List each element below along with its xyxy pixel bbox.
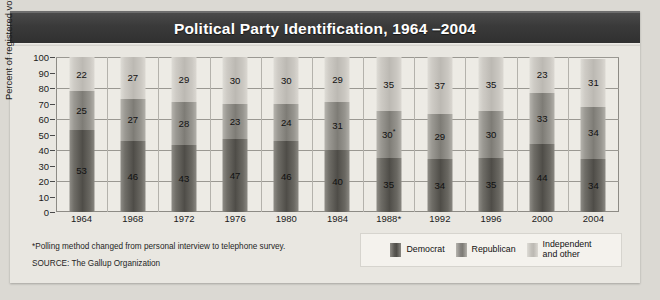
bar-slot: 353035 xyxy=(465,57,516,212)
bar-value-label: 30 xyxy=(486,129,497,140)
x-axis-tick-label: 1976 xyxy=(225,213,246,224)
bar-slot: 343431 xyxy=(568,57,619,212)
bar-segment-rep: 30 xyxy=(479,111,504,158)
bar-segment-ind: 30 xyxy=(223,57,248,104)
bar-slot: 3530*35 xyxy=(363,57,414,212)
bar-segment-rep: 29 xyxy=(427,114,452,159)
stacked-bar[interactable]: 432829 xyxy=(171,57,196,212)
bar-slot: 532522 xyxy=(56,57,107,212)
bar-value-label: 40 xyxy=(332,176,343,187)
legend-item-democrat[interactable]: Democrat xyxy=(390,243,444,257)
y-axis-tick-mark xyxy=(50,212,55,213)
legend-label-independent-line2: and other xyxy=(543,249,580,259)
bar-value-label: 29 xyxy=(179,74,190,85)
bar-segment-rep: 23 xyxy=(223,104,248,140)
bar-segment-rep: 27 xyxy=(120,99,145,141)
bar-segment-dem: 34 xyxy=(427,159,452,212)
bar-segment-ind: 22 xyxy=(69,57,94,91)
y-axis-tick-label: 10 xyxy=(38,191,49,202)
x-axis-tick-label: 1988* xyxy=(376,213,401,224)
bar-value-label: 30* xyxy=(382,128,395,140)
bar-segment-rep: 34 xyxy=(581,107,606,160)
bar-segment-rep: 33 xyxy=(530,93,555,144)
y-axis-tick-mark xyxy=(50,88,55,89)
bar-value-label: 28 xyxy=(179,118,190,129)
bar-value-label: 46 xyxy=(281,171,292,182)
bar-value-label: 29 xyxy=(332,74,343,85)
legend: Democrat Republican Independent and othe… xyxy=(360,233,622,267)
bar-segment-ind: 35 xyxy=(479,57,504,111)
bar-value-label: 47 xyxy=(230,170,241,181)
x-axis-tick-label: 1964 xyxy=(71,213,92,224)
bar-slot: 462430 xyxy=(261,57,312,212)
bar-value-label: 25 xyxy=(76,105,87,116)
stacked-bar[interactable]: 462727 xyxy=(120,57,145,212)
bar-value-label: 31 xyxy=(588,77,599,88)
title-underline xyxy=(10,43,640,46)
legend-item-independent[interactable]: Independent and other xyxy=(527,240,592,260)
bar-segment-dem: 44 xyxy=(530,144,555,212)
bar-segment-rep: 25 xyxy=(69,91,94,130)
title-bar: Political Party Identification, 1964 –20… xyxy=(10,11,640,45)
bar-segment-ind: 37 xyxy=(427,57,452,114)
bar-segment-ind: 29 xyxy=(171,57,196,102)
page-title: Political Party Identification, 1964 –20… xyxy=(10,13,640,45)
stacked-bar[interactable]: 353035 xyxy=(479,57,504,212)
legend-swatch-republican-icon xyxy=(456,243,467,257)
legend-item-republican[interactable]: Republican xyxy=(456,243,516,257)
bar-slot: 432829 xyxy=(158,57,209,212)
chart-card: Political Party Identification, 1964 –20… xyxy=(10,11,640,283)
bar-segment-ind: 31 xyxy=(581,59,606,107)
y-axis-tick-label: 60 xyxy=(38,114,49,125)
stacked-bar[interactable]: 462430 xyxy=(274,57,299,212)
y-axis-tick-label: 40 xyxy=(38,145,49,156)
footnote-polling-method: *Polling method changed from personal in… xyxy=(32,242,285,251)
bar-segment-dem: 43 xyxy=(171,145,196,212)
bar-value-label: 29 xyxy=(435,131,446,142)
y-axis-tick-mark xyxy=(50,166,55,167)
bar-slot: 342937 xyxy=(414,57,465,212)
bar-slot: 443323 xyxy=(517,57,568,212)
bar-value-label: 30 xyxy=(230,75,241,86)
stacked-bar[interactable]: 532522 xyxy=(69,57,94,212)
footnote-source: SOURCE: The Gallup Organization xyxy=(32,259,160,268)
stacked-bar[interactable]: 343431 xyxy=(581,57,606,212)
stacked-bar[interactable]: 342937 xyxy=(427,57,452,212)
legend-label-independent-line1: Independent xyxy=(543,239,592,249)
bar-slot: 403129 xyxy=(312,57,363,212)
x-axis-tick-label: 2000 xyxy=(532,213,553,224)
bar-segment-ind: 35 xyxy=(376,57,401,111)
bar-value-label: 35 xyxy=(486,179,497,190)
y-axis-tick-label: 70 xyxy=(38,98,49,109)
x-axis-tick-label: 1972 xyxy=(173,213,194,224)
stacked-bar[interactable]: 403129 xyxy=(325,57,350,212)
bar-value-label: 35 xyxy=(383,179,394,190)
bar-segment-ind: 27 xyxy=(120,57,145,99)
footnote-marker: * xyxy=(393,128,396,135)
bar-value-label: 24 xyxy=(281,117,292,128)
y-axis-tick-mark xyxy=(50,197,55,198)
y-axis-tick-mark xyxy=(50,57,55,58)
stacked-bar[interactable]: 472330 xyxy=(223,57,248,212)
bar-segment-rep: 28 xyxy=(171,102,196,145)
bar-value-label: 22 xyxy=(76,69,87,80)
y-axis-tick-label: 50 xyxy=(38,129,49,140)
bar-value-label: 43 xyxy=(179,173,190,184)
x-axis-tick-label: 1996 xyxy=(480,213,501,224)
bar-segment-dem: 46 xyxy=(274,141,299,212)
bar-segment-dem: 46 xyxy=(120,141,145,212)
bar-value-label: 34 xyxy=(435,180,446,191)
stacked-bar[interactable]: 3530*35 xyxy=(376,57,401,212)
bar-segment-dem: 34 xyxy=(581,159,606,212)
bar-segment-ind: 29 xyxy=(325,57,350,102)
x-axis-tick-label: 1992 xyxy=(429,213,450,224)
bar-value-label: 23 xyxy=(230,116,241,127)
x-axis-tick-label: 1968 xyxy=(122,213,143,224)
stacked-bar[interactable]: 443323 xyxy=(530,57,555,212)
bar-slot: 472330 xyxy=(210,57,261,212)
legend-label-democrat: Democrat xyxy=(406,245,444,255)
bar-value-label: 35 xyxy=(486,79,497,90)
bar-value-label: 27 xyxy=(127,72,138,83)
bar-value-label: 35 xyxy=(383,79,394,90)
y-axis-tick-mark xyxy=(50,119,55,120)
